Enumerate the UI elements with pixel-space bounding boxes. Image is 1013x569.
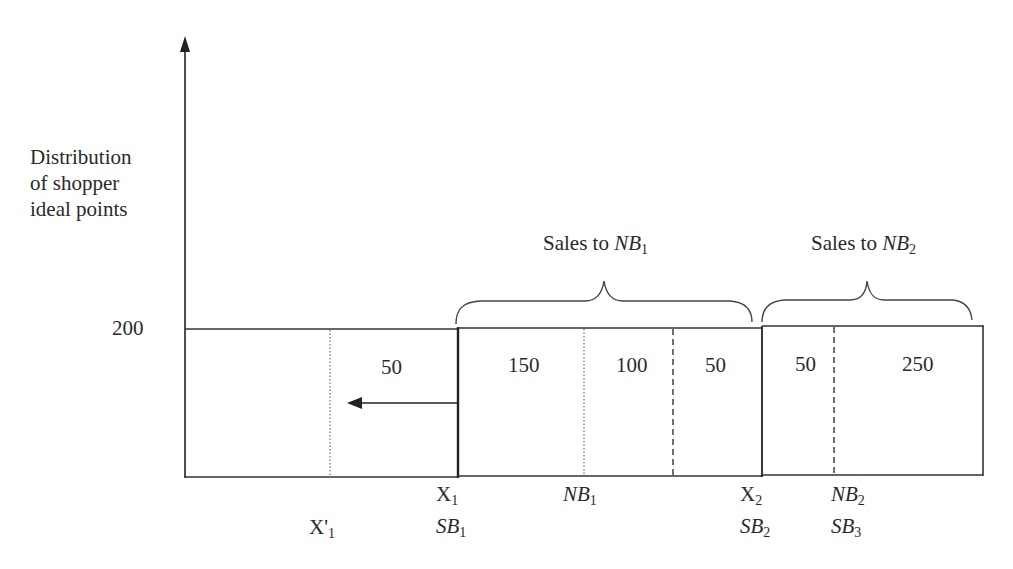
marker-nb2: NB2 [831, 482, 865, 513]
segment-value-nb2-end: 250 [902, 352, 934, 376]
brace-label-sales-nb1: Sales to NB1 [543, 231, 648, 262]
marker-x1: X1 [436, 482, 458, 513]
arrow-left-icon [347, 397, 362, 409]
y-axis-label-line-1: Distribution [30, 144, 132, 170]
segment-value-x1-nb1: 150 [508, 353, 540, 377]
segment-value-mid-x2: 50 [705, 353, 726, 377]
y-axis-arrowhead-icon [180, 36, 190, 52]
y-axis-label: Distribution of shopper ideal points [30, 144, 132, 222]
marker-sb3: SB3 [831, 514, 861, 545]
marker-nb1: NB1 [563, 482, 597, 513]
marker-sb1: SB1 [436, 514, 466, 545]
brace-sales-nb1 [456, 281, 752, 324]
y-axis-label-line-2: of shopper [30, 170, 132, 196]
segment-value-x2-nb2: 50 [795, 352, 816, 376]
marker-sb2: SB2 [740, 514, 770, 545]
marker-x2: X2 [740, 482, 762, 513]
brace-sales-nb2 [762, 281, 972, 322]
segment-value-x1prime-x1: 50 [381, 355, 402, 379]
marker-x1-prime: X'1 [309, 515, 335, 546]
y-axis-label-line-3: ideal points [30, 196, 132, 222]
brace-label-sales-nb2: Sales to NB2 [811, 231, 916, 262]
y-tick-200: 200 [112, 316, 144, 340]
segment-value-nb1-mid: 100 [616, 353, 648, 377]
